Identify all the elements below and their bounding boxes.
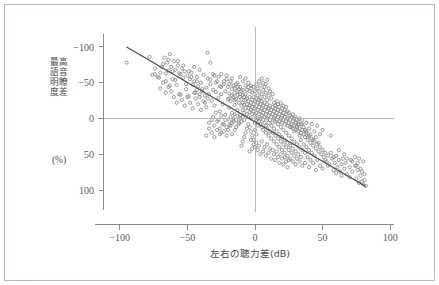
- data-point: [295, 157, 298, 160]
- data-point: [217, 96, 220, 99]
- data-point: [341, 157, 344, 160]
- figure-root: 最高語音明瞭度差 (%) 100500−50−100−100−50050100左…: [0, 0, 439, 285]
- data-point: [210, 99, 213, 102]
- data-point: [302, 143, 305, 146]
- data-point: [318, 146, 321, 149]
- data-point: [256, 148, 259, 151]
- data-point: [194, 97, 197, 100]
- data-point: [320, 153, 323, 156]
- data-point: [209, 61, 212, 64]
- data-point: [260, 140, 263, 143]
- data-point: [345, 157, 348, 160]
- data-point: [205, 105, 208, 108]
- data-point: [207, 127, 210, 130]
- data-point: [167, 58, 170, 61]
- data-point: [362, 160, 365, 163]
- data-point: [225, 74, 228, 77]
- data-point: [264, 83, 267, 86]
- data-point: [199, 81, 202, 84]
- data-point: [299, 156, 302, 159]
- data-point: [329, 151, 332, 154]
- data-point: [197, 103, 200, 106]
- data-point: [163, 56, 166, 59]
- data-point: [314, 168, 317, 171]
- data-point: [210, 131, 213, 134]
- data-point: [214, 111, 217, 114]
- data-point: [233, 113, 236, 116]
- data-point: [202, 73, 205, 76]
- data-point: [348, 166, 351, 169]
- data-point: [237, 101, 240, 104]
- data-point: [270, 97, 273, 100]
- data-point: [324, 151, 327, 154]
- data-point: [287, 134, 290, 137]
- data-point: [275, 130, 278, 133]
- data-point: [343, 153, 346, 156]
- data-point: [259, 153, 262, 156]
- data-point: [272, 153, 275, 156]
- data-point: [228, 83, 231, 86]
- data-point: [279, 140, 282, 143]
- data-point: [276, 156, 279, 159]
- data-point: [172, 95, 175, 98]
- data-point: [321, 148, 324, 151]
- data-point: [285, 131, 288, 134]
- data-point: [263, 146, 266, 149]
- data-point: [186, 74, 189, 77]
- data-point: [293, 154, 296, 157]
- data-point: [161, 62, 164, 65]
- data-point: [335, 171, 338, 174]
- data-point: [267, 87, 270, 90]
- data-point: [329, 134, 332, 137]
- data-point: [307, 148, 310, 151]
- data-point: [225, 134, 228, 137]
- data-point: [306, 156, 309, 159]
- data-points-layer: [125, 51, 368, 187]
- data-point: [220, 114, 223, 117]
- data-point: [294, 150, 297, 153]
- data-point: [301, 164, 304, 167]
- data-point: [326, 154, 329, 157]
- data-point: [282, 143, 285, 146]
- data-point: [244, 84, 247, 87]
- scatter-plot: 100500−50−100−100−50050100左右の聴力差(dB): [0, 0, 439, 285]
- data-point: [275, 150, 278, 153]
- data-point: [260, 93, 263, 96]
- data-point: [244, 77, 247, 80]
- data-point: [336, 166, 339, 169]
- data-point: [256, 87, 259, 90]
- data-point: [199, 108, 202, 111]
- data-point: [280, 148, 283, 151]
- data-point: [278, 161, 281, 164]
- data-point: [291, 113, 294, 116]
- data-point: [314, 136, 317, 139]
- data-point: [209, 78, 212, 81]
- data-point: [360, 170, 363, 173]
- data-point: [168, 52, 171, 55]
- data-point: [340, 163, 343, 166]
- data-point: [316, 124, 319, 127]
- data-point: [282, 163, 285, 166]
- data-point: [358, 157, 361, 160]
- x-tick-label: 0: [253, 232, 258, 243]
- data-point: [266, 98, 269, 101]
- data-point: [214, 90, 217, 93]
- data-point: [159, 71, 162, 74]
- data-point: [164, 80, 167, 83]
- data-point: [218, 110, 221, 113]
- data-point: [176, 60, 179, 63]
- data-point: [217, 75, 220, 78]
- data-point: [298, 160, 301, 163]
- data-point: [279, 153, 282, 156]
- x-axis-title: 左右の聴力差(dB): [210, 248, 290, 259]
- data-point: [216, 128, 219, 131]
- data-point: [184, 88, 187, 91]
- data-point: [286, 166, 289, 169]
- data-point: [257, 80, 260, 83]
- data-point: [239, 75, 242, 78]
- data-point: [125, 61, 128, 64]
- data-point: [282, 128, 285, 131]
- data-point: [283, 156, 286, 159]
- data-point: [266, 78, 269, 81]
- data-point: [271, 148, 274, 151]
